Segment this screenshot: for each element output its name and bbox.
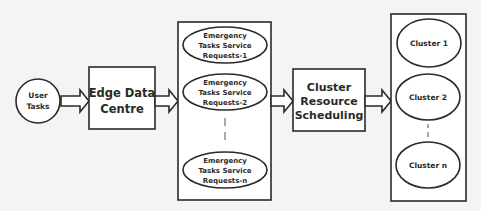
cluster-1-label: Cluster 1 xyxy=(410,39,448,48)
edge-data-centre-label-1: Edge Data xyxy=(89,86,156,100)
cluster-2-label: Cluster 2 xyxy=(409,93,447,102)
diagram-canvas: User Tasks Edge Data Centre Emergency Ta… xyxy=(0,0,481,211)
arrow-user-to-edge xyxy=(61,90,89,112)
arrow-scheduling-to-clusters xyxy=(365,90,391,112)
arrow-requests-to-scheduling xyxy=(271,90,293,112)
user-tasks-label-2: Tasks xyxy=(26,102,50,111)
request-1-label-1: Emergency xyxy=(203,32,247,40)
request-2-label-2: Tasks Service xyxy=(198,89,251,97)
request-1-label-2: Tasks Service xyxy=(198,42,251,50)
scheduling-label-2: Resource xyxy=(300,95,357,108)
request-n-label-3: Requests-n xyxy=(203,177,247,185)
user-tasks-label-1: User xyxy=(28,91,48,100)
request-2-label-1: Emergency xyxy=(203,79,247,87)
edge-data-centre-label-2: Centre xyxy=(100,102,144,116)
request-n-label-1: Emergency xyxy=(203,157,247,165)
user-tasks-node xyxy=(16,79,60,123)
arrow-edge-to-requests xyxy=(155,90,178,112)
scheduling-label-1: Cluster xyxy=(307,81,352,94)
scheduling-label-3: Scheduling xyxy=(295,109,364,122)
request-2-label-3: Requests-2 xyxy=(203,99,247,107)
cluster-n-label: Cluster n xyxy=(409,161,447,170)
request-n-label-2: Tasks Service xyxy=(198,167,251,175)
request-1-label-3: Requests-1 xyxy=(203,52,247,60)
